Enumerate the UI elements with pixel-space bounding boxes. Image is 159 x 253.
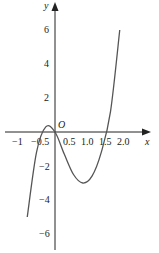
y-tick-label: 2 [44,92,49,103]
y-tick-label: 4 [44,58,49,69]
y-axis-arrow-icon [52,2,59,11]
x-tick-label: −1 [12,136,23,147]
y-axis-label: y [43,0,49,11]
y-tick-label: −4 [39,194,50,205]
y-tick-label: −6 [39,228,50,239]
x-axis-label: x [144,136,150,147]
origin-label: O [58,119,65,130]
function-curve [27,30,120,217]
x-tick-label: 2.0 [117,136,130,147]
x-axis-arrow-icon [142,129,151,136]
chart: y x O −1 −0.5 0.5 1.0 1.5 2.0 6 4 2 −2 −… [0,0,159,253]
y-tick-label: −2 [39,161,50,172]
x-tick-label: 0.5 [63,136,76,147]
y-tick-label: 6 [44,24,49,35]
x-tick-label: 1.0 [81,136,94,147]
